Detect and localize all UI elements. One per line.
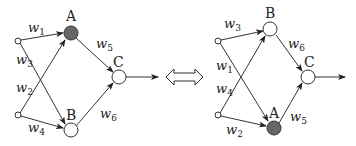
node-b — [263, 22, 277, 36]
weight-w2: w2 — [16, 80, 33, 97]
node-c — [301, 70, 315, 84]
weight-w3: w3 — [224, 16, 241, 33]
input-node-top — [215, 38, 221, 44]
weight-w1: w1 — [28, 20, 45, 37]
node-a — [64, 26, 78, 40]
input-node-bottom — [215, 112, 221, 118]
weight-w4: w4 — [216, 81, 233, 98]
node-b-label: B — [265, 5, 275, 21]
edge-w1 — [220, 43, 268, 121]
edge-w3 — [221, 31, 263, 40]
input-node-bottom — [15, 112, 21, 118]
double-arrow-icon — [166, 69, 203, 85]
node-c-label: C — [113, 54, 124, 70]
edge-w2 — [20, 40, 65, 113]
weight-w6: w6 — [100, 106, 117, 123]
node-b — [64, 123, 78, 137]
weight-w5: w5 — [290, 109, 307, 126]
node-a-label: A — [65, 8, 77, 24]
weight-w5: w5 — [96, 36, 113, 53]
weight-w2: w2 — [226, 122, 243, 139]
weight-w6: w6 — [288, 36, 305, 53]
right-network: B A C w3 w1 w4 w2 w6 w5 — [215, 5, 345, 139]
node-c — [112, 70, 126, 84]
node-c-label: C — [304, 54, 315, 70]
input-node-top — [15, 38, 21, 44]
left-network: A B C w1 w3 w2 w4 w5 w6 — [15, 8, 158, 137]
node-a-label: A — [268, 105, 280, 121]
node-a — [267, 121, 281, 135]
network-equivalence-diagram: A B C w1 w3 w2 w4 w5 w6 B A C w3 — [0, 0, 356, 146]
node-b-label: B — [66, 107, 76, 123]
weight-w3: w3 — [16, 52, 33, 69]
